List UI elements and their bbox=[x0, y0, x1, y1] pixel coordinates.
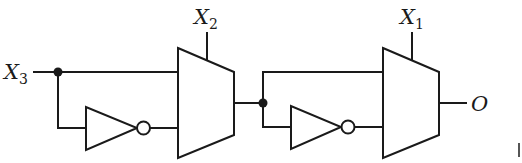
inverter-1 bbox=[86, 107, 150, 150]
inverter-1-bubble-icon bbox=[137, 122, 150, 135]
multiplexer-2 bbox=[383, 48, 439, 158]
wire-x3-to-inverter1 bbox=[58, 72, 86, 128]
inverter-1-triangle bbox=[86, 107, 137, 150]
svg-text:O: O bbox=[471, 92, 488, 116]
circuit-diagram: X3 X2 X1 O bbox=[0, 0, 522, 163]
svg-text:X2: X2 bbox=[192, 5, 218, 32]
inverter-2-bubble-icon bbox=[342, 121, 355, 134]
multiplexer-1 bbox=[178, 48, 234, 158]
label-x3: X3 bbox=[2, 60, 28, 87]
wire-mux1-out-to-inverter2 bbox=[263, 103, 291, 127]
wire-mux1-out-to-mux2-in0 bbox=[263, 72, 383, 103]
svg-text:X1: X1 bbox=[398, 5, 424, 32]
label-x2: X2 bbox=[192, 5, 218, 32]
label-x1: X1 bbox=[398, 5, 424, 32]
inverter-2-triangle bbox=[291, 106, 341, 149]
svg-text:X3: X3 bbox=[2, 60, 28, 87]
edge-mark bbox=[518, 143, 520, 157]
inverter-2 bbox=[291, 106, 355, 149]
label-output: O bbox=[471, 92, 488, 116]
